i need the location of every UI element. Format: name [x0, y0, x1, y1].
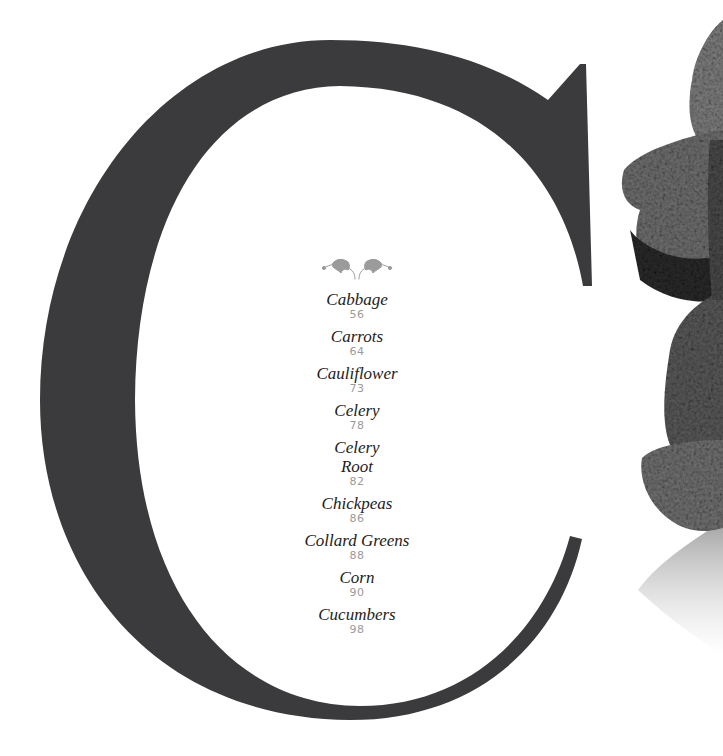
entry-page-number: 56	[257, 309, 457, 321]
entry-title: Corn	[257, 568, 457, 587]
entry-title: Chickpeas	[257, 494, 457, 513]
toc-entry-corn[interactable]: Corn 90	[257, 568, 457, 599]
entry-page-number: 90	[257, 587, 457, 599]
entry-page-number: 88	[257, 550, 457, 562]
toc-entry-celery-root[interactable]: Celery Root 82	[257, 438, 457, 488]
entry-page-number: 78	[257, 420, 457, 432]
entry-title: Carrots	[257, 327, 457, 346]
entry-title: Collard Greens	[257, 531, 457, 550]
table-of-contents: Cabbage 56 Carrots 64 Cauliflower 73 Cel…	[257, 256, 457, 642]
entry-title: Cauliflower	[257, 364, 457, 383]
entry-title: Celery	[257, 401, 457, 420]
toc-entry-cucumbers[interactable]: Cucumbers 98	[257, 605, 457, 636]
toc-entry-cabbage[interactable]: Cabbage 56	[257, 290, 457, 321]
cabbage-illustration	[600, 0, 723, 690]
toc-entry-carrots[interactable]: Carrots 64	[257, 327, 457, 358]
illustration-shadow	[638, 520, 723, 655]
entry-title: Cucumbers	[257, 605, 457, 624]
toc-entry-chickpeas[interactable]: Chickpeas 86	[257, 494, 457, 525]
toc-entry-cauliflower[interactable]: Cauliflower 73	[257, 364, 457, 395]
entry-title-line-2: Root	[257, 457, 457, 476]
entry-page-number: 98	[257, 624, 457, 636]
entry-page-number: 82	[257, 476, 457, 488]
leaf-bottom	[641, 440, 723, 531]
entry-page-number: 64	[257, 346, 457, 358]
leaf-flourish-icon	[320, 256, 394, 280]
entry-title: Cabbage	[257, 290, 457, 309]
entry-page-number: 73	[257, 383, 457, 395]
entry-page-number: 86	[257, 513, 457, 525]
entry-title-line-1: Celery	[257, 438, 457, 457]
toc-entry-celery[interactable]: Celery 78	[257, 401, 457, 432]
toc-entry-collard-greens[interactable]: Collard Greens 88	[257, 531, 457, 562]
leaf-lower	[664, 290, 723, 450]
